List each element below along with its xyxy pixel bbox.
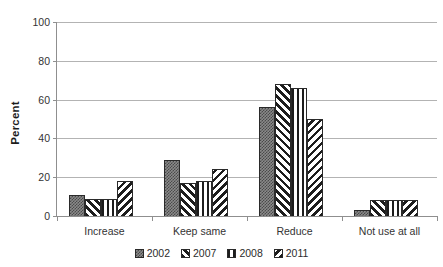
x-axis-tick-3	[342, 216, 343, 221]
x-axis-tick-0	[57, 216, 58, 221]
legend-label-2002: 2002	[147, 247, 170, 259]
bar-2011-keep-same[interactable]	[212, 169, 228, 216]
x-axis-label-increase: Increase	[57, 225, 152, 237]
legend-item-2007[interactable]: 2007	[181, 247, 216, 259]
bar-groups	[57, 22, 437, 216]
bar-2002-keep-same[interactable]	[164, 160, 180, 216]
chart-title-remnant	[190, 0, 250, 4]
x-axis-tick-4	[437, 216, 438, 221]
y-tick-label-60: 60	[38, 94, 50, 106]
x-axis-labels: Increase Keep same Reduce Not use at all	[57, 225, 437, 237]
bar-2008-not-use-at-all[interactable]	[386, 200, 402, 216]
bar-2007-keep-same[interactable]	[180, 183, 196, 216]
bar-2007-not-use-at-all[interactable]	[370, 200, 386, 216]
x-axis-label-reduce: Reduce	[247, 225, 342, 237]
x-axis-label-keep-same: Keep same	[152, 225, 247, 237]
legend-item-2008[interactable]: 2008	[227, 247, 262, 259]
bar-2007-increase[interactable]	[85, 199, 101, 216]
bar-2011-reduce[interactable]	[307, 119, 323, 216]
bar-group-not-use-at-all	[342, 22, 437, 216]
y-tick-label-40: 40	[38, 132, 50, 144]
bar-2011-increase[interactable]	[117, 181, 133, 216]
legend-item-2011[interactable]: 2011	[274, 247, 309, 259]
y-axis-title: Percent	[4, 78, 26, 168]
bar-2002-reduce[interactable]	[259, 107, 275, 216]
x-axis-tick-1	[152, 216, 153, 221]
bar-2007-reduce[interactable]	[275, 84, 291, 216]
x-axis-label-not-use-at-all: Not use at all	[342, 225, 437, 237]
bar-2008-keep-same[interactable]	[196, 181, 212, 216]
legend-swatch-2011-icon	[274, 249, 283, 258]
x-axis-tick-2	[247, 216, 248, 221]
legend-swatch-2008-icon	[227, 249, 236, 258]
bar-2008-reduce[interactable]	[291, 88, 307, 216]
legend-item-2002[interactable]: 2002	[135, 247, 170, 259]
legend-swatch-2002-icon	[135, 249, 144, 258]
bar-2008-increase[interactable]	[101, 199, 117, 216]
legend-label-2008: 2008	[239, 247, 262, 259]
bar-2002-increase[interactable]	[69, 195, 85, 216]
y-tick-label-20: 20	[38, 171, 50, 183]
bar-group-reduce	[247, 22, 342, 216]
legend-swatch-2007-icon	[181, 249, 190, 258]
bar-chart-figure: Percent 100 80 60 40 20 0	[0, 0, 443, 267]
legend-label-2011: 2011	[286, 247, 309, 259]
plot-area: 100 80 60 40 20 0	[57, 22, 437, 216]
bar-group-keep-same	[152, 22, 247, 216]
legend-label-2007: 2007	[193, 247, 216, 259]
y-tick-label-100: 100	[32, 16, 50, 28]
y-axis-title-label: Percent	[9, 78, 21, 168]
bar-group-increase	[57, 22, 152, 216]
chart-legend: 2002 2007 2008 2011	[0, 247, 443, 259]
bar-2011-not-use-at-all[interactable]	[402, 200, 418, 216]
y-tick-label-80: 80	[38, 55, 50, 67]
y-tick-label-0: 0	[44, 210, 50, 222]
